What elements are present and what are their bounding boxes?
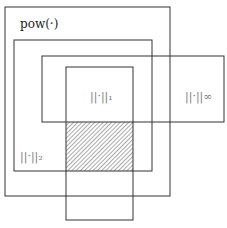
hatched-intersection-region [66,122,133,171]
l2-norm-label: ||·||₂ [20,150,43,163]
pow-label: pow(·) [20,17,58,31]
venn-diagram [0,0,227,228]
l1-norm-label: ||·||₁ [90,90,113,103]
linf-norm-label: ||·||∞ [185,90,212,103]
